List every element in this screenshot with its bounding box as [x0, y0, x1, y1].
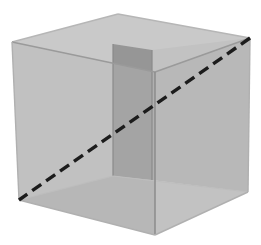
left-face	[12, 42, 155, 235]
cube-figure: Transparent cube with space diagonal A s…	[0, 0, 261, 245]
cube-diagram-canvas	[0, 0, 261, 245]
